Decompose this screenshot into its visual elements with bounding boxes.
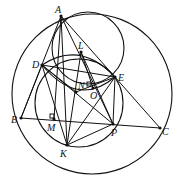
point-B <box>19 116 22 119</box>
geometry-diagram: ALDENOBMPCK <box>0 0 177 182</box>
segment-AC <box>61 16 160 128</box>
point-label-K: K <box>59 148 68 159</box>
point-P <box>111 122 114 125</box>
segment-EK <box>67 77 115 145</box>
point-label-N: N <box>77 80 86 91</box>
segment-EP <box>113 77 115 124</box>
point-label-M: M <box>46 122 56 133</box>
point-D <box>40 63 43 66</box>
point-label-B: B <box>11 114 17 125</box>
point-label-L: L <box>77 40 84 51</box>
point-label-A: A <box>54 4 62 15</box>
segment-KL <box>67 52 81 145</box>
point-label-P: P <box>110 127 117 138</box>
point-M <box>52 117 55 120</box>
point-label-C: C <box>162 126 169 137</box>
point-label-D: D <box>31 59 40 70</box>
point-label-E: E <box>117 72 124 83</box>
segment-BD <box>21 65 42 118</box>
point-label-O: O <box>90 90 97 101</box>
right-angle-mark-M <box>50 114 54 118</box>
point-E <box>113 75 116 78</box>
point-K <box>65 143 68 146</box>
